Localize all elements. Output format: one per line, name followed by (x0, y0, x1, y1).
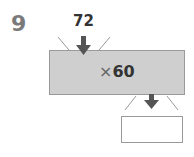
input-arrow-icon (76, 36, 91, 55)
output-arrow-icon (144, 94, 159, 109)
answer-box[interactable] (121, 116, 183, 143)
